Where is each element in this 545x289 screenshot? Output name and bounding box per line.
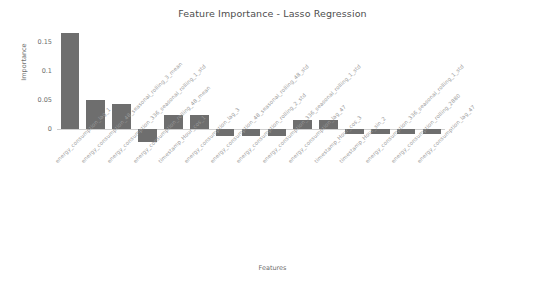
bar bbox=[242, 129, 261, 135]
bar bbox=[397, 129, 416, 133]
bar bbox=[138, 129, 157, 142]
y-tick-label: 0.1 bbox=[14, 68, 52, 75]
bar bbox=[319, 120, 338, 129]
chart-figure: Feature Importance - Lasso Regression Im… bbox=[0, 0, 545, 289]
bar bbox=[86, 100, 105, 129]
bar bbox=[61, 33, 80, 130]
y-tick-label: 0.15 bbox=[14, 39, 52, 46]
y-tick-label: 0.05 bbox=[14, 97, 52, 104]
bar bbox=[423, 129, 442, 133]
bar bbox=[268, 129, 287, 135]
plot-area bbox=[57, 27, 445, 147]
bar bbox=[190, 115, 209, 129]
bar bbox=[164, 115, 183, 129]
bar bbox=[345, 129, 364, 133]
bar bbox=[371, 129, 390, 133]
bar bbox=[112, 104, 131, 129]
page-title: Feature Importance - Lasso Regression bbox=[0, 8, 545, 19]
y-tick-label: 0 bbox=[14, 126, 52, 133]
bar-series bbox=[57, 27, 445, 147]
x-axis-label: Features bbox=[0, 264, 545, 272]
bar bbox=[293, 120, 312, 129]
bar bbox=[216, 129, 235, 135]
